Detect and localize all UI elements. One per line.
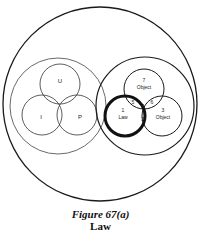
- label-i: I: [40, 114, 42, 120]
- figure-title: Figure 67(a): [0, 208, 201, 220]
- label-object-7: Object: [137, 84, 152, 90]
- outer-circle: [3, 7, 197, 201]
- label-7: 7: [143, 77, 146, 83]
- label-1: 1: [122, 107, 125, 113]
- venn-diagram: U I P 7 Object 1 Law 3 Object 5 4 6 2: [0, 0, 201, 233]
- figure-subtitle: Law: [0, 220, 201, 232]
- label-3: 3: [162, 107, 165, 113]
- label-law: Law: [118, 114, 128, 120]
- circle-u: [40, 64, 80, 104]
- right-group: 7 Object 1 Law 3 Object 5 4 6 2: [96, 57, 194, 155]
- label-object-3: Object: [156, 114, 171, 120]
- label-p: P: [78, 114, 82, 120]
- circle-i: [22, 95, 62, 135]
- label-region-5: 5: [132, 99, 135, 105]
- label-region-6: 6: [151, 99, 154, 105]
- left-group: U I P: [10, 58, 106, 154]
- label-region-4: 4: [142, 103, 145, 109]
- label-u: U: [58, 78, 62, 84]
